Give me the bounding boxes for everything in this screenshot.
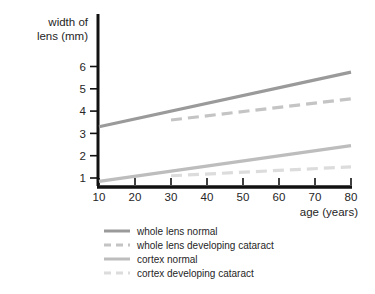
legend-item-cortex-normal[interactable]: cortex normal (104, 254, 198, 265)
y-tick-label-3: 3 (80, 128, 86, 140)
y-tick-label-5: 5 (80, 83, 86, 95)
y-axis-label-line2: lens (mm) (37, 30, 88, 42)
y-tick-label-6: 6 (80, 61, 86, 73)
legend-label-whole-lens-developing-cataract: whole lens developing cataract (136, 240, 274, 251)
chart-container: width of lens (mm) 6 5 4 3 2 1 (0, 0, 375, 294)
series-line-whole-lens-developing-cataract (171, 99, 351, 120)
y-axis-label-line1: width of (47, 16, 88, 28)
x-axis-label: age (years) (300, 206, 358, 218)
x-tick-label-30: 30 (165, 191, 178, 203)
series-line-cortex-normal (99, 146, 351, 182)
x-tick-label-20: 20 (129, 191, 142, 203)
x-axis-ticks (99, 178, 351, 185)
x-tick-label-70: 70 (309, 191, 322, 203)
x-tick-label-10: 10 (93, 191, 106, 203)
legend-item-whole-lens-developing-cataract[interactable]: whole lens developing cataract (104, 240, 274, 251)
x-tick-label-60: 60 (273, 191, 286, 203)
legend-label-whole-lens-normal: whole lens normal (136, 226, 218, 237)
legend-label-cortex-normal: cortex normal (137, 254, 198, 265)
x-tick-label-80: 80 (345, 191, 358, 203)
lens-width-line-chart: width of lens (mm) 6 5 4 3 2 1 (0, 0, 375, 294)
y-tick-label-2: 2 (80, 150, 86, 162)
y-tick-label-4: 4 (80, 105, 87, 117)
x-tick-label-40: 40 (201, 191, 214, 203)
legend: whole lens normal whole lens developing … (104, 226, 274, 279)
x-tick-label-50: 50 (237, 191, 250, 203)
series-line-whole-lens-normal (99, 72, 351, 127)
y-tick-label-1: 1 (80, 172, 86, 184)
legend-label-cortex-developing-cataract: cortex developing cataract (137, 268, 254, 279)
legend-item-whole-lens-normal[interactable]: whole lens normal (104, 226, 218, 237)
legend-item-cortex-developing-cataract[interactable]: cortex developing cataract (104, 268, 254, 279)
series-layer (99, 72, 351, 181)
